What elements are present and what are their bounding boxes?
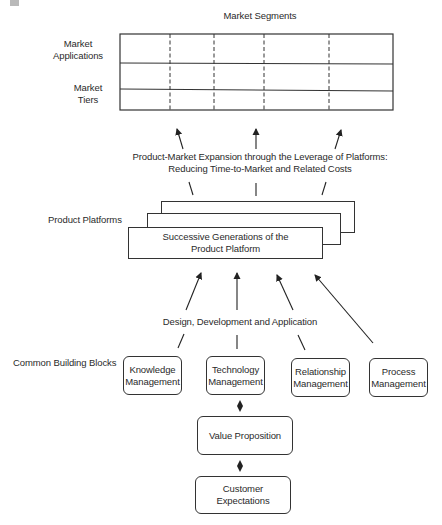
block-knowledge-management: Knowledge Management bbox=[123, 356, 182, 395]
market-applications-label: Market Applications bbox=[42, 38, 114, 62]
platform-generation-front: Successive Generations of the Product Pl… bbox=[128, 227, 323, 259]
value-proposition-box: Value Proposition bbox=[197, 416, 293, 455]
value-proposition-text: Value Proposition bbox=[209, 430, 281, 442]
platform-box-line1: Successive Generations of the bbox=[163, 231, 289, 243]
market-applications-text: Market Applications bbox=[42, 38, 114, 62]
customer-expectations-line2: Expectations bbox=[216, 495, 269, 507]
market-tiers-text: Market Tiers bbox=[68, 82, 108, 106]
market-tiers-label: Market Tiers bbox=[68, 82, 108, 106]
expansion-caption-line2: Reducing Time-to-Market and Related Cost… bbox=[120, 163, 400, 175]
platform-box-line2: Product Platform bbox=[191, 243, 260, 255]
block-line2: Management bbox=[293, 378, 347, 390]
market-grid bbox=[120, 34, 393, 112]
expansion-caption: Product-Market Expansion through the Lev… bbox=[120, 151, 400, 175]
block-relationship-management: Relationship Management bbox=[291, 358, 350, 397]
block-line1: Process bbox=[382, 366, 416, 378]
expansion-caption-line1: Product-Market Expansion through the Lev… bbox=[120, 151, 400, 163]
common-building-blocks-label: Common Building Blocks bbox=[13, 357, 116, 369]
design-arrows bbox=[178, 273, 373, 350]
block-line2: Management bbox=[371, 378, 425, 390]
block-process-management: Process Management bbox=[369, 358, 428, 397]
customer-expectations-line1: Customer bbox=[223, 483, 263, 495]
product-platforms-label: Product Platforms bbox=[48, 214, 122, 226]
block-line2: Management bbox=[208, 376, 262, 388]
design-development-caption: Design, Development and Application bbox=[160, 316, 320, 328]
block-line1: Knowledge bbox=[129, 364, 175, 376]
market-segments-label: Market Segments bbox=[200, 10, 320, 22]
block-line1: Technology bbox=[212, 364, 259, 376]
customer-expectations-box: Customer Expectations bbox=[195, 476, 291, 514]
block-line1: Relationship bbox=[295, 366, 346, 378]
block-line2: Management bbox=[125, 376, 179, 388]
block-technology-management: Technology Management bbox=[206, 356, 265, 395]
